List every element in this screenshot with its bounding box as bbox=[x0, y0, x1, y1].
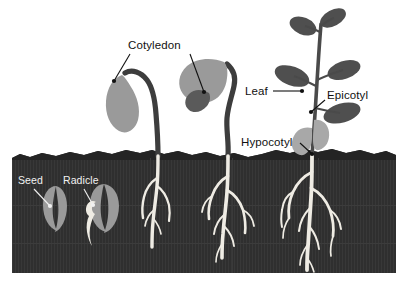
leader-dot-seed bbox=[48, 204, 52, 208]
label-leaf: Leaf bbox=[245, 85, 268, 97]
label-cotyledon: Cotyledon bbox=[128, 39, 181, 51]
cotyledon-stage3 bbox=[106, 75, 139, 132]
label-radicle: Radicle bbox=[63, 174, 99, 186]
soil-vline-3 bbox=[318, 158, 319, 273]
leader-dot-hypocotyl bbox=[310, 152, 314, 156]
leaf-low-right bbox=[321, 99, 363, 128]
diagram-canvas: Cotyledon Leaf Epicotyl Hypocotyl Seed R… bbox=[0, 0, 409, 290]
germination-diagram: Cotyledon Leaf Epicotyl Hypocotyl Seed R… bbox=[0, 0, 409, 290]
soil-vline-1 bbox=[150, 158, 151, 273]
leader-dot-cotyledon-right bbox=[202, 90, 206, 94]
label-seed: Seed bbox=[18, 174, 43, 186]
hypocotyl-stem-stage4 bbox=[227, 64, 235, 156]
leader-dot-cotyledon-left bbox=[112, 79, 116, 83]
leaf-mid-left bbox=[272, 61, 312, 91]
leader-dot-radicle bbox=[91, 203, 95, 207]
leader-dot-leaf bbox=[300, 89, 304, 93]
label-hypocotyl: Hypocotyl bbox=[241, 136, 292, 148]
withered-cotyledon-right bbox=[313, 120, 329, 150]
leaf-mid-right bbox=[325, 56, 363, 84]
soil-vline-2 bbox=[232, 158, 233, 273]
leaf-top-left bbox=[287, 13, 319, 39]
soil-surface-band bbox=[12, 148, 396, 160]
label-epicotyl: Epicotyl bbox=[327, 89, 368, 101]
soil-band-line-2 bbox=[12, 243, 396, 244]
leader-dot-epicotyl bbox=[309, 110, 313, 114]
soil-fill bbox=[12, 149, 396, 273]
soil-block bbox=[12, 148, 396, 273]
